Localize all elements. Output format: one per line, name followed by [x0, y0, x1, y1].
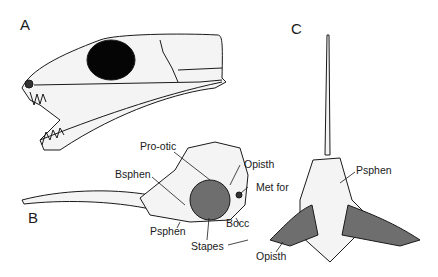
- label-opisth-c: Opisth: [256, 250, 286, 262]
- panel-label-b: B: [28, 209, 38, 226]
- panel-label-a: A: [20, 16, 30, 33]
- panel-label-c: C: [291, 20, 302, 37]
- figure-drawing: [0, 0, 438, 277]
- label-opisth-b: Opisth: [244, 158, 274, 170]
- skull-drawing: [22, 34, 226, 150]
- braincase-lateral-drawing: [22, 142, 248, 222]
- label-bocc: Bocc: [226, 217, 249, 229]
- label-psphen-c: Psphen: [356, 164, 392, 176]
- label-bsphen: Bsphen: [115, 168, 151, 180]
- label-stapes: Stapes: [191, 240, 224, 252]
- label-prootic: Pro-otic: [140, 140, 176, 152]
- label-met-for: Met for: [256, 181, 289, 193]
- label-psphen-b: Psphen: [150, 225, 186, 237]
- braincase-dorsal-drawing: [270, 35, 420, 262]
